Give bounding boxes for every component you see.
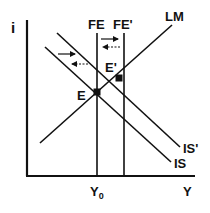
x-axis-label: Y	[183, 184, 192, 199]
point-e-prime-label: E'	[105, 60, 117, 75]
point-e-label: E	[77, 88, 86, 103]
is-lm-fe-diagram: i Y Y0 FE FE' LM IS IS' E E'	[0, 0, 210, 213]
fe-label: FE	[88, 17, 105, 32]
is-prime-curve	[57, 33, 180, 147]
equilibrium-point-e-prime	[116, 75, 123, 82]
y-axis-label: i	[11, 19, 15, 36]
fe-prime-label: FE'	[113, 17, 133, 32]
is-prime-label: IS'	[183, 141, 198, 156]
lm-label: LM	[165, 9, 184, 24]
y0-tick-label: Y0	[90, 184, 104, 201]
lm-curve	[40, 25, 172, 143]
equilibrium-point-e	[94, 89, 101, 96]
is-label: IS	[174, 156, 187, 171]
